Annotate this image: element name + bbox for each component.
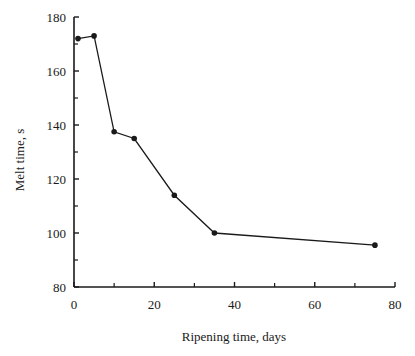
data-point-marker xyxy=(172,192,178,198)
y-axis-title: Melt time, s xyxy=(12,129,27,191)
y-axis: 80100120140160180 xyxy=(47,10,80,295)
data-point-marker xyxy=(372,242,378,248)
y-tick-label: 180 xyxy=(47,10,67,25)
data-point-marker xyxy=(75,36,81,42)
data-point-marker xyxy=(111,129,117,135)
data-point-marker xyxy=(212,230,218,236)
y-tick-label: 160 xyxy=(47,64,67,79)
x-tick-label: 40 xyxy=(228,297,241,312)
x-tick-label: 0 xyxy=(71,297,78,312)
data-series xyxy=(75,33,378,248)
x-tick-label: 80 xyxy=(389,297,402,312)
y-tick-label: 140 xyxy=(47,118,67,133)
series-line xyxy=(78,36,375,245)
line-chart: 80100120140160180 020406080 Ripening tim… xyxy=(0,0,415,356)
data-point-marker xyxy=(131,136,137,142)
x-axis: 020406080 xyxy=(71,282,402,312)
x-axis-title: Ripening time, days xyxy=(182,329,286,344)
x-tick-label: 20 xyxy=(148,297,161,312)
y-tick-label: 120 xyxy=(47,172,67,187)
y-tick-label: 80 xyxy=(53,280,66,295)
y-tick-label: 100 xyxy=(47,226,67,241)
data-point-marker xyxy=(91,33,97,39)
x-tick-label: 60 xyxy=(308,297,321,312)
